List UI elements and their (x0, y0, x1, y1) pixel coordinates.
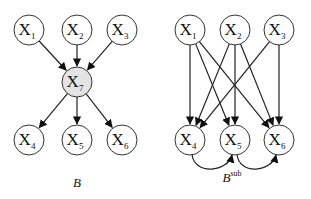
nodes-layer: X1X2X3X7X4X5X6X1X2X3X4X5X6 (14, 15, 294, 155)
curved-edge-Bsub-X5-X6 (237, 154, 276, 169)
node-Bsub-X2: X2 (220, 15, 250, 45)
edge-B-X1-X7 (39, 41, 66, 70)
edge-B-X7-X4 (39, 94, 67, 128)
node-Bsub-X4: X4 (175, 125, 205, 155)
node-B-X3: X3 (107, 15, 137, 45)
caption-b-sub: Bsub (222, 169, 241, 185)
node-B-X5: X5 (62, 125, 92, 155)
node-Bsub-X6: X6 (264, 125, 294, 155)
node-B-X6: X6 (107, 125, 137, 155)
bayesian-network-figure: X1X2X3X7X4X5X6X1X2X3X4X5X6 B Bsub (0, 0, 311, 199)
curved-edge-Bsub-X4-X5 (192, 154, 232, 169)
node-Bsub-X5: X5 (220, 125, 250, 155)
node-B-X2: X2 (62, 15, 92, 45)
node-Bsub-X1: X1 (175, 15, 205, 45)
edge-B-X3-X7 (87, 41, 112, 70)
node-B-X7: X7 (62, 67, 92, 97)
node-Bsub-X3: X3 (264, 15, 294, 45)
edge-B-X7-X6 (86, 94, 112, 128)
caption-b: B (73, 175, 81, 190)
node-B-X4: X4 (14, 125, 44, 155)
node-B-X1: X1 (14, 15, 44, 45)
captions-layer: B Bsub (73, 169, 242, 190)
